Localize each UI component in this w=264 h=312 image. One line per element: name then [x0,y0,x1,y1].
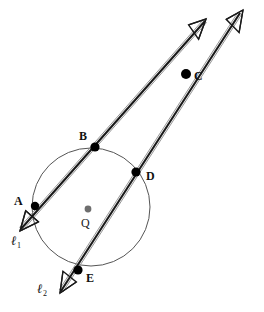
line-label-l2: ℓ2 [37,282,47,298]
center-point [85,206,92,213]
point-label-E: E [86,272,94,284]
line-label-l2-subscript: 2 [42,289,47,298]
line-label-l1: ℓ1 [11,234,21,250]
point-D [131,167,140,176]
point-B [90,142,99,151]
point-label-A: A [14,195,23,207]
point-label-D: D [146,170,155,182]
point-A [31,202,39,210]
point-E [73,265,82,274]
line-label-l1-subscript: 1 [16,241,21,250]
center-label-Q: Q [81,217,90,229]
point-label-C: C [194,70,203,82]
line-l1 [19,20,206,231]
geometry-canvas [0,0,264,312]
point-C [181,69,191,79]
point-label-B: B [79,130,87,142]
geometry-figure: A B C D E Q ℓ1 ℓ2 [0,0,264,312]
